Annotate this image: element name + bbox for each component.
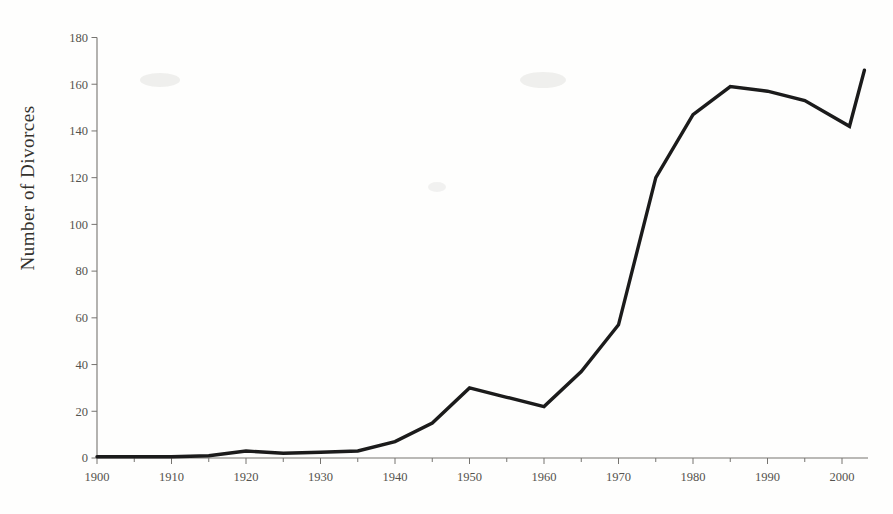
x-tick-label: 1900 [85,470,110,484]
tick-labels: 0204060801001201401601801900191019201930… [69,31,854,484]
x-tick-label: 1910 [159,470,184,484]
y-tick-label: 20 [76,405,89,419]
x-tick-label: 1980 [681,470,706,484]
x-tick-label: 1940 [383,470,408,484]
x-tick-label: 1960 [532,470,557,484]
y-tick-label: 60 [76,311,89,325]
data-series [97,70,864,457]
y-tick-label: 0 [82,451,88,465]
y-tick-label: 100 [69,218,88,232]
y-tick-label: 160 [69,78,88,92]
tick-marks [92,38,843,465]
y-axis-label: Number of Divorces [17,105,38,270]
y-tick-label: 80 [76,264,89,278]
scan-smudge [520,72,566,88]
scan-smudge [428,182,446,192]
divorce-line-chart: 0204060801001201401601801900191019201930… [0,0,893,514]
x-tick-label: 1990 [755,470,780,484]
y-tick-label: 140 [69,124,88,138]
y-tick-label: 180 [69,31,88,45]
data-line [97,70,864,457]
x-tick-label: 1920 [234,470,259,484]
scan-smudge [140,73,180,87]
x-tick-label: 2000 [830,470,855,484]
scan-smudges [140,72,566,192]
x-tick-label: 1970 [606,470,631,484]
axes [97,38,868,459]
x-tick-label: 1950 [457,470,482,484]
y-tick-label: 40 [76,358,89,372]
y-tick-label: 120 [69,171,88,185]
chart-page: 0204060801001201401601801900191019201930… [0,0,893,514]
x-tick-label: 1930 [308,470,333,484]
